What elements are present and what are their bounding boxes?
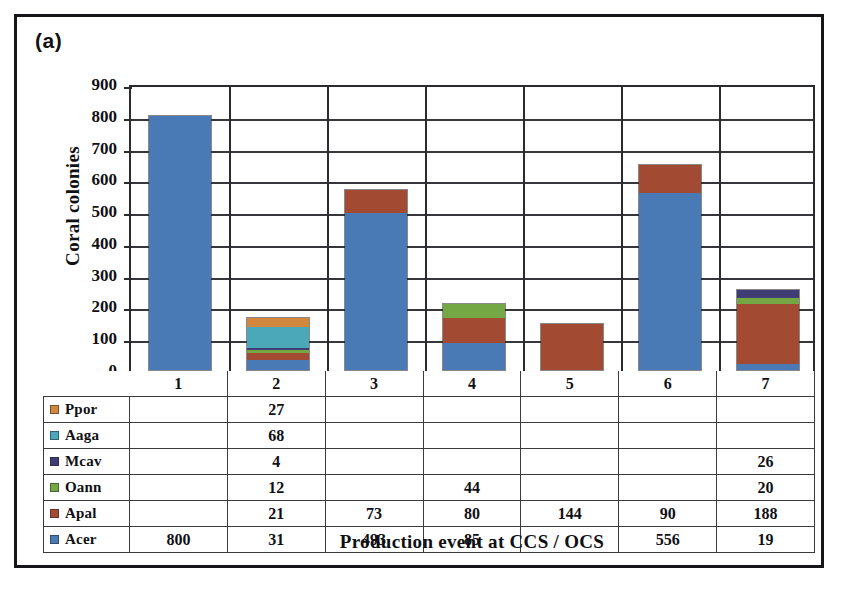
legend-swatch-icon [50,431,59,440]
legend-swatch-icon [50,457,59,466]
table-row: Oann124420 [44,475,815,501]
y-axis-tick-label: 200 [59,297,117,317]
legend-label: Ppor [65,401,97,418]
stacked-bar[interactable] [442,303,506,371]
bar-column[interactable] [425,87,523,371]
legend-swatch-icon [50,509,59,518]
bar-segment-acer[interactable] [737,364,799,370]
table-header-row: 1234567 [44,371,815,397]
table-cell: 68 [227,423,325,449]
table-cell [717,423,815,449]
table-cell [521,449,619,475]
table-header-cell: 7 [717,371,815,397]
table-cell [325,397,423,423]
table-cell [130,475,228,501]
stacked-bar[interactable] [246,317,310,371]
bar-segment-apal[interactable] [737,304,799,364]
table-header-cell: 4 [423,371,521,397]
bar-segment-apal[interactable] [345,190,407,213]
legend-entry-mcav: Mcav [44,449,130,475]
bar-segment-acer[interactable] [247,360,309,370]
table-cell [325,423,423,449]
bar-column[interactable] [523,87,621,371]
plot-area [129,85,815,371]
y-axis-tick-label: 700 [59,139,117,159]
y-axis-tick-label: 400 [59,234,117,254]
table-cell [325,475,423,501]
table-cell: 4 [227,449,325,475]
legend-swatch-icon [50,405,59,414]
table-cell [423,449,521,475]
stacked-bar[interactable] [540,323,604,371]
table-cell: 12 [227,475,325,501]
y-axis-tick-label: 600 [59,170,117,190]
column-separator [621,87,623,371]
bar-segment-apal[interactable] [541,324,603,370]
y-axis-tick-label: 900 [59,75,117,95]
bar-column[interactable] [131,87,229,371]
table-cell [130,449,228,475]
table-cell [423,397,521,423]
y-axis-tick-labels: 0100200300400500600700800900 [59,85,117,371]
bar-segment-oann[interactable] [443,304,505,318]
table-cell: 21 [227,501,325,527]
bar-column[interactable] [621,87,719,371]
legend-label: Aaga [65,427,99,444]
table-cell [423,423,521,449]
legend-label: Apal [65,505,97,522]
bar-column[interactable] [719,87,817,371]
data-table: 1234567Ppor27Aaga68Mcav426Oann124420Apal… [43,371,815,553]
y-axis-tick-label: 100 [59,329,117,349]
table-cell: 90 [619,501,717,527]
bar-segment-acer[interactable] [149,116,211,370]
bar-column[interactable] [327,87,425,371]
bar-segment-apal[interactable] [443,318,505,343]
legend-entry-acer: Acer [44,527,130,553]
table-cell [130,423,228,449]
table-header-cell: 2 [227,371,325,397]
table-cell [521,397,619,423]
legend-label: Oann [65,479,102,496]
table-row: Ppor27 [44,397,815,423]
legend-entry-oann: Oann [44,475,130,501]
table-cell [521,423,619,449]
legend-entry-aaga: Aaga [44,423,130,449]
table-cell: 144 [521,501,619,527]
table-cell: 44 [423,475,521,501]
bar-segment-acer[interactable] [345,213,407,370]
bar-segment-apal[interactable] [639,165,701,194]
legend-entry-ppor: Ppor [44,397,130,423]
y-axis-tick-label: 800 [59,107,117,127]
bar-segment-mcav[interactable] [737,290,799,298]
bar-segment-apal[interactable] [247,353,309,360]
table-cell: 26 [717,449,815,475]
table-cell [619,475,717,501]
column-separator [523,87,525,371]
column-separator [327,87,329,371]
bar-segment-acer[interactable] [443,343,505,370]
table-cell: 188 [717,501,815,527]
bar-segment-acer[interactable] [639,193,701,370]
table-cell: 73 [325,501,423,527]
panel-label: (a) [35,29,62,53]
bar-column[interactable] [229,87,327,371]
stacked-bar[interactable] [344,189,408,371]
legend-swatch-icon [50,483,59,492]
x-axis-title: Production event at CCS / OCS [129,531,815,553]
table-header-cell: 5 [521,371,619,397]
table-cell [619,449,717,475]
stacked-bar[interactable] [736,289,800,371]
bar-segment-ppor[interactable] [247,318,309,327]
legend-label: Acer [65,531,97,548]
table-cell [619,423,717,449]
table-row: Aaga68 [44,423,815,449]
bar-series-layer [131,87,813,371]
stacked-bar[interactable] [148,115,212,371]
table-cell [521,475,619,501]
stacked-bar[interactable] [638,164,702,371]
bar-segment-aaga[interactable] [247,327,309,349]
y-axis-tick-label: 500 [59,202,117,222]
table-header-corner [44,371,130,397]
figure-frame: (a) Coral colonies 010020030040050060070… [14,14,824,568]
table-header-cell: 6 [619,371,717,397]
